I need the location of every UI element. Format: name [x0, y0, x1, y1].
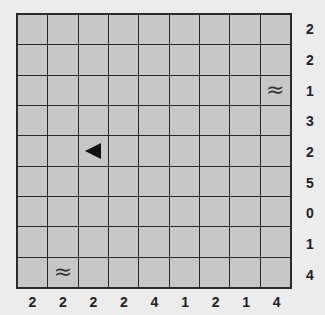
grid-cell[interactable]	[48, 106, 77, 135]
grid-cell[interactable]	[48, 15, 77, 44]
grid-cell[interactable]	[200, 76, 229, 105]
grid-cell[interactable]	[261, 45, 290, 74]
grid-cell[interactable]	[170, 45, 199, 74]
grid-cell[interactable]: ≈	[48, 258, 77, 287]
row-clues: 221325014	[300, 14, 320, 290]
water-icon: ≈	[54, 261, 72, 283]
grid-cell[interactable]	[109, 227, 138, 256]
column-clue: 2	[200, 291, 231, 313]
grid-cell[interactable]	[18, 136, 47, 165]
grid-cell[interactable]	[18, 15, 47, 44]
grid-cell[interactable]	[109, 76, 138, 105]
grid-cell[interactable]	[18, 167, 47, 196]
grid-cell[interactable]	[170, 76, 199, 105]
grid-cell[interactable]	[48, 136, 77, 165]
grid-cell[interactable]	[109, 136, 138, 165]
row-clue: 1	[300, 229, 320, 260]
grid-cell[interactable]	[79, 15, 108, 44]
grid-cell[interactable]	[230, 15, 259, 44]
grid-cell[interactable]	[200, 45, 229, 74]
grid-cell[interactable]	[139, 106, 168, 135]
grid-cell[interactable]	[230, 167, 259, 196]
grid-cell[interactable]	[230, 106, 259, 135]
grid-cell[interactable]	[139, 15, 168, 44]
grid-cell[interactable]	[261, 197, 290, 226]
row-clue: 1	[300, 75, 320, 106]
grid-cell[interactable]	[18, 227, 47, 256]
grid-cell[interactable]	[48, 227, 77, 256]
grid-cell[interactable]	[79, 167, 108, 196]
grid-cell[interactable]	[79, 227, 108, 256]
grid-cell[interactable]	[170, 197, 199, 226]
column-clue: 2	[109, 291, 140, 313]
grid-cell[interactable]	[79, 45, 108, 74]
grid-cell[interactable]	[261, 258, 290, 287]
grid-cell[interactable]	[48, 197, 77, 226]
row-clue: 2	[300, 14, 320, 45]
grid-cell[interactable]	[200, 197, 229, 226]
grid-cell[interactable]	[79, 106, 108, 135]
column-clue: 1	[170, 291, 201, 313]
grid-cell[interactable]	[200, 227, 229, 256]
grid-cell[interactable]	[109, 106, 138, 135]
grid-cell[interactable]	[170, 167, 199, 196]
grid-cell[interactable]	[170, 106, 199, 135]
grid-cell[interactable]	[18, 106, 47, 135]
grid-cell[interactable]	[139, 45, 168, 74]
grid-cell[interactable]	[200, 258, 229, 287]
grid-cell[interactable]	[170, 15, 199, 44]
row-clue: 2	[300, 45, 320, 76]
column-clues: 222241214	[17, 291, 292, 313]
ship-end-left-icon	[85, 143, 101, 159]
grid-cell[interactable]	[230, 45, 259, 74]
grid-cell[interactable]	[79, 136, 108, 165]
grid-cell[interactable]	[200, 15, 229, 44]
grid-cell[interactable]	[139, 227, 168, 256]
grid-cell[interactable]	[48, 167, 77, 196]
grid-cell[interactable]	[230, 258, 259, 287]
row-clue: 3	[300, 106, 320, 137]
grid-cell[interactable]	[48, 45, 77, 74]
grid-cell[interactable]	[109, 167, 138, 196]
grid-cell[interactable]	[170, 258, 199, 287]
grid-cell[interactable]	[139, 167, 168, 196]
column-clue: 4	[261, 291, 292, 313]
grid-cell[interactable]	[109, 15, 138, 44]
grid-cell[interactable]	[139, 197, 168, 226]
grid-cell[interactable]	[261, 136, 290, 165]
grid-cell[interactable]	[109, 197, 138, 226]
grid-cell[interactable]	[109, 45, 138, 74]
grid-cell[interactable]	[200, 106, 229, 135]
grid-cell[interactable]	[200, 136, 229, 165]
water-icon: ≈	[266, 79, 284, 101]
puzzle-board: ≈≈	[16, 13, 292, 289]
grid-cell[interactable]	[48, 76, 77, 105]
grid-cell[interactable]	[79, 258, 108, 287]
grid-cell[interactable]	[230, 136, 259, 165]
grid-cell[interactable]	[79, 197, 108, 226]
grid-cell[interactable]	[200, 167, 229, 196]
grid-cell[interactable]	[230, 76, 259, 105]
grid-cell[interactable]	[230, 227, 259, 256]
grid-cell[interactable]: ≈	[261, 76, 290, 105]
grid-cell[interactable]	[261, 106, 290, 135]
grid-cell[interactable]	[261, 167, 290, 196]
grid-cell[interactable]	[18, 76, 47, 105]
row-clue: 0	[300, 198, 320, 229]
grid-cell[interactable]	[170, 227, 199, 256]
grid-cell[interactable]	[18, 197, 47, 226]
column-clue: 2	[48, 291, 79, 313]
grid-cell[interactable]	[139, 136, 168, 165]
grid-cell[interactable]	[79, 76, 108, 105]
grid-cell[interactable]	[139, 258, 168, 287]
grid-cell[interactable]	[109, 258, 138, 287]
grid-cell[interactable]	[230, 197, 259, 226]
grid-cell[interactable]	[261, 227, 290, 256]
grid-cell[interactable]	[139, 76, 168, 105]
grid-cell[interactable]	[261, 15, 290, 44]
grid-cell[interactable]	[170, 136, 199, 165]
grid-cell[interactable]	[18, 258, 47, 287]
row-clue: 5	[300, 167, 320, 198]
column-clue: 2	[78, 291, 109, 313]
grid-cell[interactable]	[18, 45, 47, 74]
